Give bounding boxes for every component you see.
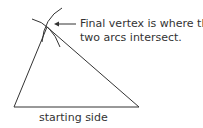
annotation: Final vertex is where the two arcs inter… bbox=[80, 17, 203, 45]
base-label: starting side bbox=[39, 111, 108, 124]
annotation-line-2: two arcs intersect. bbox=[80, 31, 203, 45]
annotation-line-1: Final vertex is where the bbox=[80, 17, 203, 31]
arrow-head-icon bbox=[54, 22, 59, 27]
